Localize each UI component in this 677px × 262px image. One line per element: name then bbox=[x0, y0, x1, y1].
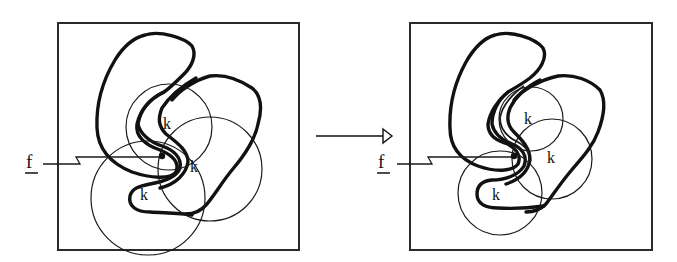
left-right-cloud-blob bbox=[172, 76, 260, 214]
right-k-label-top: k bbox=[524, 110, 532, 127]
right-f-leader-line bbox=[397, 157, 512, 164]
left-k-label-bottom: k bbox=[140, 186, 148, 203]
left-circle-right bbox=[158, 117, 262, 221]
arrow-head-icon bbox=[383, 129, 392, 143]
left-k-label-right: k bbox=[190, 158, 198, 175]
left-panel: f k k k bbox=[25, 23, 299, 255]
right-panel: f k k k bbox=[377, 23, 652, 250]
right-k-label-right: k bbox=[547, 149, 555, 166]
figure-canvas: f k k k f k k k bbox=[0, 0, 677, 262]
right-circle-bottom bbox=[458, 151, 542, 235]
left-f-label: f bbox=[26, 151, 33, 172]
right-f-label: f bbox=[378, 151, 385, 172]
right-k-label-bottom: k bbox=[492, 186, 500, 203]
left-circle-bottom bbox=[91, 141, 205, 255]
transition-arrow bbox=[316, 129, 392, 143]
left-focus-dot bbox=[159, 153, 165, 159]
right-focus-dot bbox=[511, 153, 517, 159]
right-panel-frame bbox=[410, 23, 652, 250]
right-right-cloud-blob bbox=[514, 76, 604, 212]
left-k-label-top: k bbox=[163, 115, 171, 132]
